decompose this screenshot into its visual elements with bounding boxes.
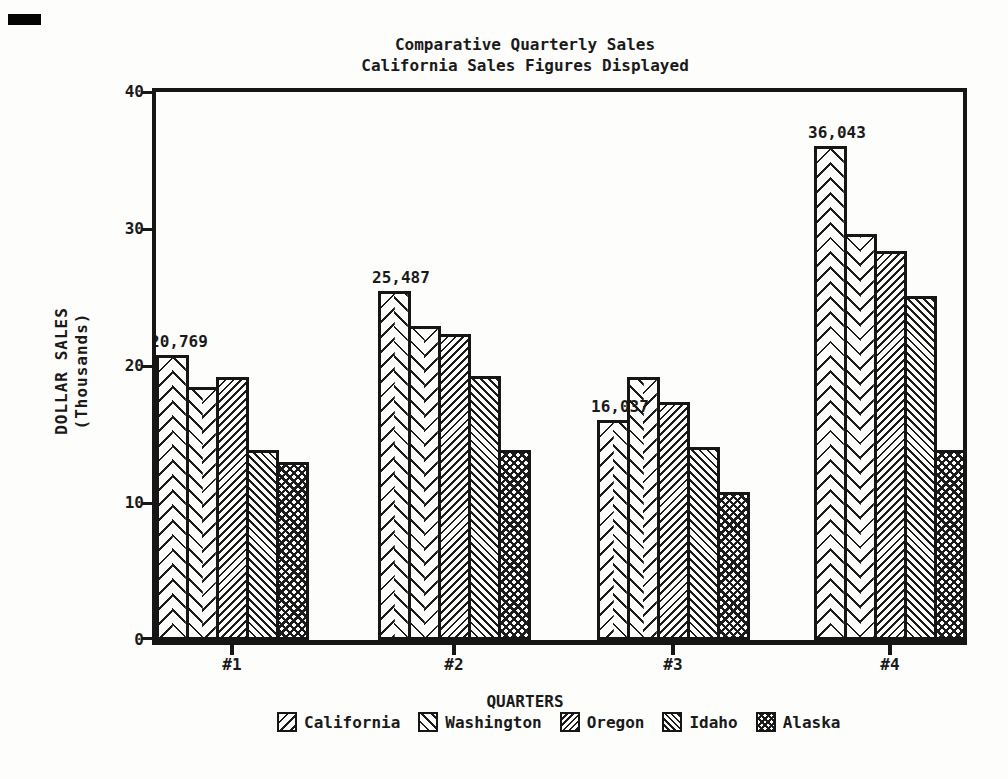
bar-oregon-q1 bbox=[216, 377, 249, 640]
legend-item-california: California bbox=[277, 712, 400, 732]
y-tick-label-40: 40 bbox=[94, 82, 144, 101]
chart-subtitle: California Sales Figures Displayed bbox=[361, 55, 689, 76]
legend: California Washington Oregon Idaho Alask… bbox=[277, 712, 840, 732]
bar-alaska-q1 bbox=[276, 462, 309, 640]
bar-california-q2 bbox=[378, 291, 411, 640]
data-label-california-q2: 25,487 bbox=[372, 268, 430, 287]
x-tick-mark-4 bbox=[888, 645, 892, 655]
bar-washington-q1 bbox=[186, 387, 219, 640]
y-tick-label-10: 10 bbox=[94, 493, 144, 512]
legend-label-alaska: Alaska bbox=[783, 713, 841, 732]
chart-title: Comparative Quarterly Sales bbox=[361, 34, 689, 55]
x-tick-label-4: #4 bbox=[860, 655, 920, 674]
y-tick-label-0: 0 bbox=[94, 630, 144, 649]
y-axis-title-line1: DOLLAR SALES bbox=[52, 307, 72, 435]
bar-idaho-q1 bbox=[246, 450, 279, 640]
bar-idaho-q2 bbox=[468, 376, 501, 640]
bar-alaska-q2 bbox=[498, 450, 531, 640]
y-tick-label-30: 30 bbox=[94, 219, 144, 238]
bar-washington-q2 bbox=[408, 326, 441, 640]
x-tick-mark-1 bbox=[230, 645, 234, 655]
x-axis-title: QUARTERS bbox=[486, 692, 563, 711]
legend-swatch-alaska-icon bbox=[756, 712, 776, 732]
legend-item-alaska: Alaska bbox=[756, 712, 841, 732]
x-tick-label-2: #2 bbox=[424, 655, 484, 674]
chart-title-block: Comparative Quarterly Sales California S… bbox=[361, 34, 689, 76]
x-tick-label-3: #3 bbox=[643, 655, 703, 674]
bar-oregon-q3 bbox=[657, 402, 690, 640]
legend-label-california: California bbox=[304, 713, 400, 732]
scanned-chart-page: Comparative Quarterly Sales California S… bbox=[0, 0, 1008, 779]
bar-oregon-q2 bbox=[438, 334, 471, 640]
data-label-california-q3: 16,037 bbox=[591, 397, 649, 416]
y-tick-mark-20 bbox=[142, 365, 152, 368]
x-tick-mark-3 bbox=[671, 645, 675, 655]
bar-california-q4 bbox=[814, 146, 847, 640]
bar-california-q3 bbox=[597, 420, 630, 640]
legend-item-oregon: Oregon bbox=[560, 712, 645, 732]
bar-california-q1 bbox=[156, 355, 189, 640]
legend-label-oregon: Oregon bbox=[587, 713, 645, 732]
bar-idaho-q3 bbox=[687, 447, 720, 640]
bar-alaska-q3 bbox=[717, 492, 750, 640]
y-tick-mark-40 bbox=[142, 91, 152, 94]
y-tick-label-20: 20 bbox=[94, 356, 144, 375]
y-axis-title: DOLLAR SALES (Thousands) bbox=[52, 307, 92, 435]
legend-swatch-oregon-icon bbox=[560, 712, 580, 732]
bar-oregon-q4 bbox=[874, 251, 907, 640]
plot-frame: 20,76925,48716,03736,043 bbox=[152, 88, 967, 645]
data-label-california-q4: 36,043 bbox=[808, 123, 866, 142]
legend-item-washington: Washington bbox=[418, 712, 541, 732]
bar-washington-q3 bbox=[627, 377, 660, 640]
legend-swatch-washington-icon bbox=[418, 712, 438, 732]
bar-washington-q4 bbox=[844, 234, 877, 640]
legend-label-idaho: Idaho bbox=[689, 713, 737, 732]
bar-idaho-q4 bbox=[904, 296, 937, 640]
legend-swatch-idaho-icon bbox=[662, 712, 682, 732]
legend-swatch-california-icon bbox=[277, 712, 297, 732]
y-tick-mark-30 bbox=[142, 228, 152, 231]
y-tick-mark-10 bbox=[142, 502, 152, 505]
plot-area: 20,76925,48716,03736,043 bbox=[156, 92, 963, 640]
x-tick-label-1: #1 bbox=[202, 655, 262, 674]
y-axis-title-line2: (Thousands) bbox=[72, 307, 92, 435]
scan-artifact-mark bbox=[8, 14, 41, 25]
x-tick-mark-2 bbox=[452, 645, 456, 655]
y-tick-mark-0 bbox=[142, 637, 152, 640]
legend-item-idaho: Idaho bbox=[662, 712, 737, 732]
bar-alaska-q4 bbox=[934, 450, 963, 640]
legend-label-washington: Washington bbox=[445, 713, 541, 732]
data-label-california-q1: 20,769 bbox=[156, 332, 208, 351]
